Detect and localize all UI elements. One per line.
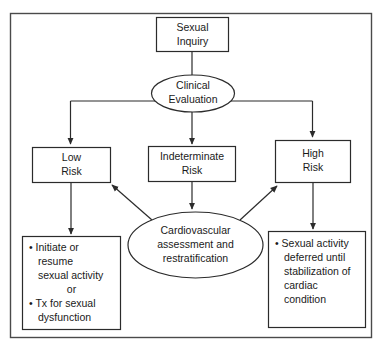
node-low-risk-outcome-line-5: • Tx for sexual (29, 297, 96, 309)
edge-cardiovascular-to-low-risk (112, 185, 152, 220)
node-high-risk-outcome[interactable]: • Sexual activity deferred until stabili… (269, 232, 366, 328)
node-high-risk-line-1: High (302, 147, 324, 159)
node-sexual-inquiry[interactable]: Sexual Inquiry (157, 18, 229, 52)
node-high-risk-line-2: Risk (303, 161, 324, 173)
node-indeterminate-risk-line-2: Risk (182, 164, 203, 176)
node-low-risk-outcome-line-2: resume (38, 255, 73, 267)
node-low-risk-outcome-line-4: or (67, 283, 77, 295)
node-low-risk-outcome-line-3: sexual activity (38, 269, 104, 281)
node-high-risk-outcome-line-4: cardiac (284, 279, 318, 291)
node-indeterminate-risk-line-1: Indeterminate (160, 150, 224, 162)
node-low-risk-outcome-line-6: dysfunction (38, 311, 91, 323)
node-high-risk-outcome-line-1: • Sexual activity (275, 237, 349, 249)
node-high-risk-outcome-line-2: deferred until (284, 251, 345, 263)
node-low-risk-line-1: Low (62, 151, 82, 163)
flowchart-svg: Sexual Inquiry Clinical Evaluation Low R… (0, 0, 381, 349)
node-cardiovascular-assessment-line-1: Cardiovascular (160, 224, 231, 236)
node-low-risk-outcome[interactable]: • Initiate or resume sexual activity or … (23, 237, 121, 330)
node-sexual-inquiry-line-2: Inquiry (177, 35, 209, 47)
node-sexual-inquiry-line-1: Sexual (176, 21, 208, 33)
node-indeterminate-risk[interactable]: Indeterminate Risk (149, 147, 236, 182)
node-high-risk-outcome-line-5: condition (284, 293, 326, 305)
node-cardiovascular-assessment[interactable]: Cardiovascular assessment and restratifi… (128, 212, 263, 278)
node-clinical-evaluation-line-2: Evaluation (168, 93, 217, 105)
node-low-risk[interactable]: Low Risk (33, 148, 111, 183)
edge-cardiovascular-to-high-risk (240, 186, 277, 220)
node-clinical-evaluation[interactable]: Clinical Evaluation (152, 75, 235, 112)
node-cardiovascular-assessment-line-3: restratification (163, 252, 229, 264)
node-clinical-evaluation-line-1: Clinical (176, 79, 210, 91)
node-high-risk[interactable]: High Risk (276, 141, 351, 183)
node-high-risk-outcome-line-3: stabilization of (284, 265, 351, 277)
node-low-risk-line-2: Risk (61, 165, 82, 177)
node-low-risk-outcome-line-1: • Initiate or (29, 241, 79, 253)
node-cardiovascular-assessment-line-2: assessment and (157, 238, 234, 250)
diagram-canvas: Sexual Inquiry Clinical Evaluation Low R… (0, 0, 381, 349)
